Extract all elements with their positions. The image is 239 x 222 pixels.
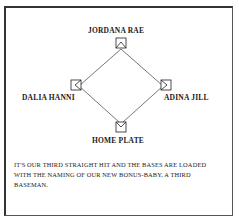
- first-base-label: ADINA JILL: [164, 93, 209, 102]
- third-base-icon: [71, 80, 81, 90]
- home-plate-label: HOME PLATE: [92, 136, 144, 145]
- announcement-text: IT'S OUR THIRD STRAIGHT HIT AND THE BASE…: [14, 160, 224, 190]
- second-base-icon: [116, 38, 126, 48]
- first-base-icon: [161, 80, 171, 90]
- second-base-label: JORDANA RAE: [88, 26, 144, 35]
- base-paths: [79, 49, 163, 122]
- third-base-label: DALIA HANNI: [22, 93, 75, 102]
- home-plate-icon: [116, 122, 126, 132]
